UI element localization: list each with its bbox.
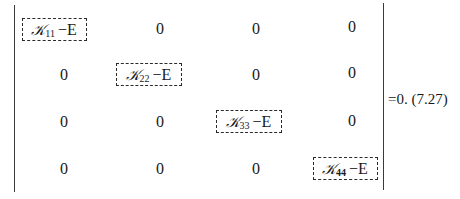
determinant-left-bar [14, 5, 15, 192]
diagonal-entry-22: 𝒦22−E [116, 63, 182, 86]
minus-e: −E [253, 113, 272, 131]
matrix-entry-13: 0 [252, 21, 260, 37]
diagonal-entry-33: 𝒦33−E [216, 110, 282, 133]
script-h-symbol: 𝒦 [126, 66, 139, 84]
subscript: 44 [336, 167, 346, 178]
subscript: 33 [240, 120, 250, 131]
script-h-symbol: 𝒦 [322, 160, 335, 178]
determinant-right-bar [383, 3, 384, 190]
matrix-entry-31: 0 [60, 114, 68, 130]
equation-number-label: =0. (7.27) [388, 91, 448, 108]
matrix-entry-21: 0 [60, 67, 68, 83]
matrix-entry-14: 0 [348, 19, 356, 35]
diagonal-entry-44: 𝒦44−E [313, 157, 378, 180]
matrix-entry-24: 0 [348, 65, 356, 81]
matrix-entry-43: 0 [252, 161, 260, 177]
diagonal-entry-11: 𝒦11−E [22, 18, 87, 41]
matrix-entry-42: 0 [156, 161, 164, 177]
minus-e: −E [349, 160, 368, 178]
matrix-entry-23: 0 [252, 67, 260, 83]
matrix-entry-41: 0 [60, 161, 68, 177]
script-h-symbol: 𝒦 [31, 21, 44, 39]
matrix-entry-34: 0 [348, 113, 356, 129]
matrix-entry-12: 0 [156, 21, 164, 37]
subscript: 11 [45, 28, 55, 39]
script-h-symbol: 𝒦 [226, 113, 239, 131]
minus-e: −E [58, 21, 77, 39]
minus-e: −E [153, 66, 172, 84]
matrix-entry-32: 0 [156, 114, 164, 130]
subscript: 22 [140, 73, 150, 84]
